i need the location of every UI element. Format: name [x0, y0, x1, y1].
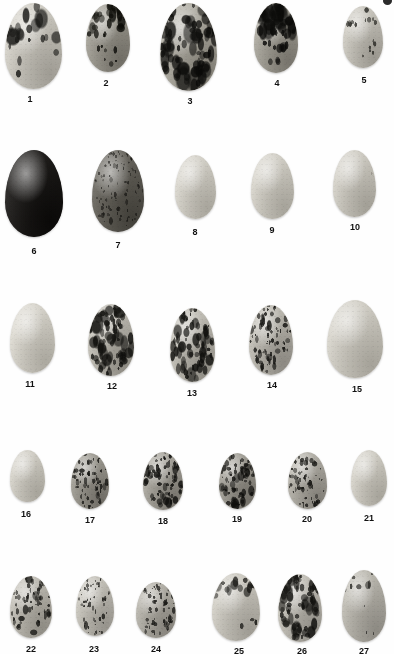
egg-label-15: 15: [352, 384, 362, 394]
egg-label-22: 22: [26, 644, 36, 654]
egg-shell-5: [343, 6, 383, 68]
egg-shell-17: [71, 453, 109, 509]
egg-grain-18: [143, 452, 183, 510]
egg-shell-3: [160, 3, 217, 91]
egg-grain-8: [175, 155, 216, 219]
egg-label-19: 19: [232, 514, 242, 524]
egg-grain-9: [251, 153, 294, 219]
egg-label-24: 24: [151, 644, 161, 654]
egg-label-10: 10: [350, 222, 360, 232]
egg-shell-14: [249, 305, 293, 375]
egg-grain-2: [86, 4, 130, 72]
egg-plate: 1234567891011121314151617181920212223242…: [0, 0, 394, 654]
egg-label-16: 16: [21, 509, 31, 519]
egg-label-27: 27: [359, 646, 369, 654]
egg-shell-18: [143, 452, 183, 510]
egg-shell-21: [351, 450, 387, 506]
egg-grain-24: [136, 582, 176, 638]
egg-shell-4: [254, 3, 298, 73]
egg-label-20: 20: [302, 514, 312, 524]
egg-label-8: 8: [192, 227, 197, 237]
egg-shell-12: [88, 304, 134, 376]
egg-shell-11: [10, 303, 55, 373]
egg-grain-5: [343, 6, 383, 68]
egg-shell-20: [288, 452, 327, 509]
egg-shell-16: [10, 450, 45, 502]
egg-shell-13: [170, 308, 215, 382]
egg-shell-15: [327, 300, 383, 378]
egg-grain-27: [342, 570, 386, 642]
egg-label-14: 14: [267, 380, 277, 390]
egg-grain-12: [88, 304, 134, 376]
egg-shell-23: [76, 576, 114, 636]
egg-grain-7: [92, 150, 144, 232]
egg-shell-10: [333, 150, 376, 217]
egg-shell-8: [175, 155, 216, 219]
egg-label-4: 4: [274, 78, 279, 88]
egg-label-25: 25: [234, 646, 244, 654]
egg-shell-1: [5, 3, 62, 89]
egg-label-17: 17: [85, 515, 95, 525]
egg-grain-17: [71, 453, 109, 509]
egg-shell-6: [5, 150, 63, 237]
egg-label-12: 12: [107, 381, 117, 391]
egg-label-6: 6: [31, 246, 36, 256]
egg-shell-2: [86, 4, 130, 72]
egg-label-9: 9: [269, 225, 274, 235]
egg-shell-24: [136, 582, 176, 638]
page-edge-mark-icon: [383, 0, 392, 5]
egg-grain-6: [5, 150, 63, 237]
egg-grain-1: [5, 3, 62, 89]
egg-label-21: 21: [364, 513, 374, 523]
egg-grain-16: [10, 450, 45, 502]
egg-label-5: 5: [361, 75, 366, 85]
egg-grain-26: [278, 574, 322, 642]
egg-shell-7: [92, 150, 144, 232]
egg-label-7: 7: [115, 240, 120, 250]
egg-grain-22: [10, 576, 52, 638]
egg-grain-25: [212, 573, 260, 641]
egg-shell-26: [278, 574, 322, 642]
egg-label-18: 18: [158, 516, 168, 526]
egg-label-2: 2: [103, 78, 108, 88]
egg-grain-15: [327, 300, 383, 378]
egg-label-1: 1: [27, 94, 32, 104]
egg-grain-19: [219, 453, 256, 509]
egg-grain-10: [333, 150, 376, 217]
egg-shell-9: [251, 153, 294, 219]
egg-grain-13: [170, 308, 215, 382]
egg-grain-14: [249, 305, 293, 375]
egg-shell-22: [10, 576, 52, 638]
egg-label-26: 26: [297, 646, 307, 654]
egg-grain-11: [10, 303, 55, 373]
egg-label-11: 11: [25, 379, 35, 389]
egg-shell-19: [219, 453, 256, 509]
egg-grain-4: [254, 3, 298, 73]
egg-grain-23: [76, 576, 114, 636]
egg-grain-21: [351, 450, 387, 506]
egg-label-13: 13: [187, 388, 197, 398]
egg-shell-27: [342, 570, 386, 642]
egg-grain-3: [160, 3, 217, 91]
egg-shell-25: [212, 573, 260, 641]
egg-grain-20: [288, 452, 327, 509]
egg-label-23: 23: [89, 644, 99, 654]
egg-label-3: 3: [187, 96, 192, 106]
